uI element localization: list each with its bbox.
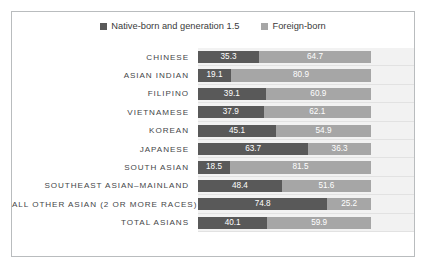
category-label: SOUTH ASIAN xyxy=(12,163,198,172)
category-label: SOUTHEAST ASIAN–MAINLAND xyxy=(12,181,198,190)
bar-segment-foreign-born[interactable]: 62.1 xyxy=(264,106,371,118)
bar-row: KOREAN 45.1 54.9 xyxy=(12,122,414,140)
bar-value-label: 39.1 xyxy=(224,90,240,98)
bar-row: SOUTHEAST ASIAN–MAINLAND 48.4 51.6 xyxy=(12,177,414,195)
stacked-bar: 35.3 64.7 xyxy=(198,51,371,63)
square-swatch-icon xyxy=(261,23,268,30)
bar-row: SOUTH ASIAN 18.5 81.5 xyxy=(12,158,414,176)
bar-segment-native-born[interactable]: 40.1 xyxy=(198,217,267,229)
stacked-bar: 19.1 80.9 xyxy=(198,69,371,81)
legend-item-foreign-born[interactable]: Foreign-born xyxy=(261,22,325,31)
bar-value-label: 45.1 xyxy=(229,127,245,135)
bar-value-label: 25.2 xyxy=(341,200,357,208)
plot-area: CHINESE 35.3 64.7 ASIAN INDIAN 19.1 xyxy=(12,48,414,250)
bar-segment-native-born[interactable]: 45.1 xyxy=(198,125,276,137)
bar-segment-native-born[interactable]: 48.4 xyxy=(198,180,282,192)
category-label: VIETNAMESE xyxy=(12,108,198,117)
bar-value-label: 37.9 xyxy=(223,108,239,116)
legend-item-label: Native-born and generation 1.5 xyxy=(111,22,239,31)
bar-segment-foreign-born[interactable]: 25.2 xyxy=(327,198,371,210)
bar-value-label: 35.3 xyxy=(221,53,237,61)
bar-value-label: 40.1 xyxy=(225,219,241,227)
bar-track: 40.1 59.9 xyxy=(198,214,414,232)
bar-segment-native-born[interactable]: 39.1 xyxy=(198,88,266,100)
bar-segment-foreign-born[interactable]: 60.9 xyxy=(266,88,371,100)
bar-segment-native-born[interactable]: 63.7 xyxy=(198,143,308,155)
bar-segment-foreign-born[interactable]: 54.9 xyxy=(276,125,371,137)
bar-track: 39.1 60.9 xyxy=(198,85,414,103)
chart-frame: Native-born and generation 1.5 Foreign-b… xyxy=(11,11,415,257)
bar-row: ASIAN INDIAN 19.1 80.9 xyxy=(12,66,414,84)
category-label: KOREAN xyxy=(12,126,198,135)
bar-row: VIETNAMESE 37.9 62.1 xyxy=(12,103,414,121)
stacked-bar: 37.9 62.1 xyxy=(198,106,371,118)
stacked-bar: 45.1 54.9 xyxy=(198,125,371,137)
bar-track: 35.3 64.7 xyxy=(198,48,414,66)
category-label: ASIAN INDIAN xyxy=(12,71,198,80)
bar-track: 63.7 36.3 xyxy=(198,140,414,158)
bar-segment-native-born[interactable]: 74.8 xyxy=(198,198,327,210)
bar-track: 37.9 62.1 xyxy=(198,103,414,121)
bar-row: ALL OTHER ASIAN (2 OR MORE RACES) 74.8 2… xyxy=(12,195,414,213)
bar-segment-native-born[interactable]: 18.5 xyxy=(198,161,230,173)
category-label: CHINESE xyxy=(12,53,198,62)
bar-value-label: 51.6 xyxy=(318,182,334,190)
bar-segment-foreign-born[interactable]: 80.9 xyxy=(231,69,371,81)
bar-segment-native-born[interactable]: 35.3 xyxy=(198,51,259,63)
category-label: JAPANESE xyxy=(12,145,198,154)
bar-track: 74.8 25.2 xyxy=(198,195,414,213)
category-label: FILIPINO xyxy=(12,89,198,98)
bar-value-label: 48.4 xyxy=(232,182,248,190)
bar-value-label: 59.9 xyxy=(311,219,327,227)
bar-track: 19.1 80.9 xyxy=(198,66,414,84)
bar-segment-foreign-born[interactable]: 59.9 xyxy=(267,217,371,229)
bar-value-label: 36.3 xyxy=(332,145,348,153)
bar-value-label: 63.7 xyxy=(245,145,261,153)
stacked-bar: 18.5 81.5 xyxy=(198,161,371,173)
bar-segment-native-born[interactable]: 19.1 xyxy=(198,69,231,81)
category-label: ALL OTHER ASIAN (2 OR MORE RACES) xyxy=(12,200,198,209)
stacked-bar: 63.7 36.3 xyxy=(198,143,371,155)
bar-row: TOTAL ASIANS 40.1 59.9 xyxy=(12,214,414,232)
legend-item-native-born[interactable]: Native-born and generation 1.5 xyxy=(100,22,239,31)
bar-value-label: 81.5 xyxy=(293,163,309,171)
bar-value-label: 62.1 xyxy=(309,108,325,116)
bar-value-label: 64.7 xyxy=(307,53,323,61)
stacked-bar: 48.4 51.6 xyxy=(198,180,371,192)
bar-track: 18.5 81.5 xyxy=(198,158,414,176)
bar-track: 48.4 51.6 xyxy=(198,177,414,195)
bar-value-label: 80.9 xyxy=(293,71,309,79)
legend-item-label: Foreign-born xyxy=(272,22,325,31)
bar-value-label: 74.8 xyxy=(255,200,271,208)
bar-row: JAPANESE 63.7 36.3 xyxy=(12,140,414,158)
bar-value-label: 18.5 xyxy=(206,163,222,171)
stacked-bar: 40.1 59.9 xyxy=(198,217,371,229)
bar-segment-native-born[interactable]: 37.9 xyxy=(198,106,264,118)
chart-legend: Native-born and generation 1.5 Foreign-b… xyxy=(12,22,414,31)
bar-segment-foreign-born[interactable]: 36.3 xyxy=(308,143,371,155)
bar-value-label: 54.9 xyxy=(316,127,332,135)
bar-row: CHINESE 35.3 64.7 xyxy=(12,48,414,66)
bar-value-label: 60.9 xyxy=(310,90,326,98)
stacked-bar: 39.1 60.9 xyxy=(198,88,371,100)
bar-value-label: 19.1 xyxy=(207,71,223,79)
stacked-bar: 74.8 25.2 xyxy=(198,198,371,210)
bar-segment-foreign-born[interactable]: 81.5 xyxy=(230,161,371,173)
square-swatch-icon xyxy=(100,23,107,30)
category-label: TOTAL ASIANS xyxy=(12,218,198,227)
bar-row: FILIPINO 39.1 60.9 xyxy=(12,85,414,103)
bar-segment-foreign-born[interactable]: 51.6 xyxy=(282,180,371,192)
bar-track: 45.1 54.9 xyxy=(198,122,414,140)
bar-segment-foreign-born[interactable]: 64.7 xyxy=(259,51,371,63)
